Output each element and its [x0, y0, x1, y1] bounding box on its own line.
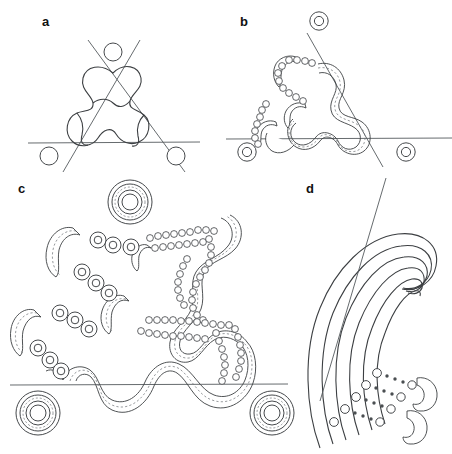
trail-end-circle	[408, 381, 416, 389]
bead	[293, 94, 300, 101]
torus-inner	[94, 236, 102, 244]
bead	[232, 326, 239, 333]
panel-d-hook-upper	[413, 378, 437, 411]
bead	[186, 334, 193, 341]
bead	[177, 295, 184, 302]
dot	[385, 374, 388, 377]
torus-inner	[401, 147, 410, 156]
bead	[202, 336, 209, 343]
bead	[263, 101, 270, 108]
bead	[286, 90, 293, 97]
bead	[226, 322, 233, 329]
panel-c-tiny-bead-chain-right	[213, 326, 245, 385]
medium-torus	[30, 340, 46, 356]
torus-inner	[71, 316, 79, 324]
bead	[219, 346, 226, 353]
panel-b-tube-edge-outer	[288, 63, 371, 154]
bead	[147, 235, 154, 242]
torus-inner	[314, 16, 323, 25]
bead	[276, 78, 283, 85]
dot	[393, 377, 396, 380]
bead	[176, 242, 183, 249]
panel-a-circle-bottom-right	[167, 147, 185, 165]
torus-inner	[127, 243, 135, 251]
bead	[210, 321, 217, 328]
torus-ring-4	[264, 405, 280, 421]
medium-torus	[123, 239, 139, 255]
panel-d-terminal-circle-3	[352, 393, 361, 402]
bead	[300, 98, 307, 105]
bead	[160, 244, 167, 251]
panel-d-terminal-circle-1	[373, 369, 382, 378]
dot	[380, 404, 383, 407]
medium-torus	[88, 275, 104, 291]
bead	[162, 332, 169, 339]
bead	[211, 228, 218, 235]
bead	[189, 297, 196, 304]
panel-c-tube-inner-lower	[76, 342, 256, 412]
bead	[184, 241, 191, 248]
bead	[221, 354, 228, 361]
dot	[369, 417, 372, 420]
bead	[294, 57, 301, 64]
bead	[254, 121, 261, 128]
bead	[233, 374, 240, 381]
bead	[181, 302, 188, 309]
torus-inner	[105, 289, 113, 297]
bead	[178, 333, 185, 340]
bead	[257, 114, 264, 121]
medium-torus	[53, 363, 69, 379]
panel-d: d	[306, 178, 437, 448]
panel-c-large-torus-bottom-left	[16, 391, 60, 435]
bead	[208, 244, 215, 251]
bead	[171, 231, 178, 238]
dot	[372, 401, 375, 404]
bead	[259, 107, 266, 114]
bead	[186, 318, 193, 325]
dot	[361, 414, 364, 417]
torus-inner	[92, 279, 100, 287]
bead	[275, 70, 282, 77]
bead	[255, 141, 262, 148]
panel-b-label: b	[240, 14, 248, 29]
bead	[286, 57, 293, 64]
bead	[219, 378, 226, 385]
bead	[206, 260, 213, 267]
bead	[190, 289, 197, 296]
bead	[221, 370, 228, 377]
bead	[138, 328, 145, 335]
bead	[168, 243, 175, 250]
bead	[175, 279, 182, 286]
bead	[302, 58, 309, 65]
panel-a-lobe-detail-right	[132, 115, 144, 146]
panel-c: c	[10, 180, 294, 435]
panel-a-line-right	[63, 40, 140, 172]
bead	[194, 319, 201, 326]
bead	[222, 362, 229, 369]
medium-torus	[105, 237, 121, 253]
bead	[309, 60, 316, 67]
bead	[238, 350, 245, 357]
bead	[192, 240, 199, 247]
bead	[218, 322, 225, 329]
bead	[193, 281, 200, 288]
panel-a-lobe-detail-top	[93, 99, 130, 106]
torus-inner	[34, 344, 42, 352]
bead	[184, 256, 191, 263]
bead	[179, 230, 186, 237]
bead	[238, 358, 245, 365]
bead	[177, 271, 184, 278]
bead	[154, 317, 161, 324]
panel-b-line-diagonal	[307, 33, 383, 167]
bead	[237, 342, 244, 349]
panel-c-label: c	[18, 181, 25, 196]
medium-torus	[101, 285, 117, 301]
bead	[180, 263, 187, 270]
figure-canvas: a b	[0, 0, 452, 454]
trail-end-circle	[397, 393, 405, 401]
panel-a-label: a	[42, 14, 50, 29]
torus-inner	[57, 367, 65, 375]
panel-d-line-diagonal	[320, 178, 386, 401]
bead	[175, 287, 182, 294]
torus-inner	[46, 356, 54, 364]
